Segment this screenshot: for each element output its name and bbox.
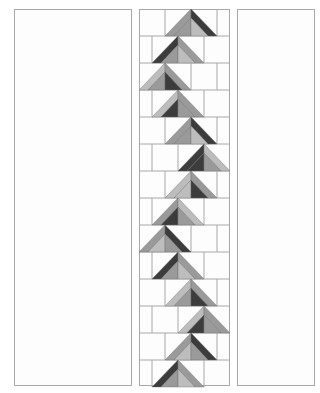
flying-geese-diagram — [0, 0, 320, 393]
